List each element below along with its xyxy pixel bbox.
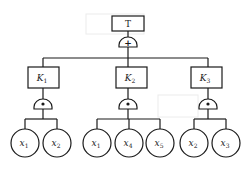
basic-event: x4 [115, 129, 143, 157]
top-event-label: T [125, 19, 131, 29]
or-gate-symbol: + [124, 38, 132, 48]
and-gate-icon [119, 99, 137, 109]
basic-event: x3 [212, 129, 240, 157]
or-gate-icon: + [119, 37, 137, 48]
fault-tree-diagram: T + K1 K2 K3 [0, 0, 247, 169]
and-gate-icon [34, 99, 52, 109]
intermediate-event-k1: K1 [28, 67, 59, 88]
intermediate-event-k2: K2 [116, 67, 147, 88]
top-event: T [112, 16, 144, 31]
intermediate-event-k3: K3 [191, 67, 222, 88]
basic-event: x2 [180, 129, 208, 157]
basic-event: x1 [83, 129, 111, 157]
basic-event: x5 [146, 129, 174, 157]
and-gate-icon [199, 99, 217, 109]
basic-event: x1 [11, 129, 39, 157]
basic-event: x2 [43, 129, 71, 157]
